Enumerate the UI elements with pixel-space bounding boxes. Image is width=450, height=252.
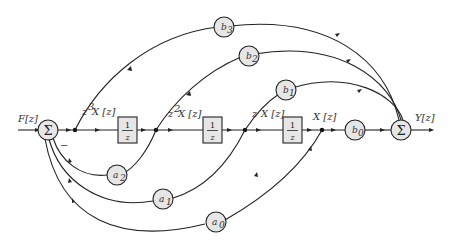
sigma-symbol: Σ <box>396 123 405 138</box>
svg-text:a: a <box>159 194 164 204</box>
diagram-canvas: − Σ Σ 1 z 1 z 1 z b 3 b 2 b 1 <box>0 0 450 252</box>
svg-text:z: z <box>209 133 215 142</box>
gain-a2: a 2 <box>107 165 127 185</box>
svg-text:z: z <box>81 106 88 117</box>
gain-b2: b 2 <box>239 46 259 66</box>
svg-text:X [z]: X [z] <box>312 111 336 122</box>
signal-label-zx: z X [z] <box>251 108 284 119</box>
svg-text:z: z <box>289 133 295 142</box>
svg-text:X [z]: X [z] <box>260 108 284 119</box>
feedforward-paths <box>75 24 403 130</box>
feedback-sign: − <box>60 140 68 151</box>
delay-block-3: 1 z <box>283 117 302 143</box>
svg-text:1: 1 <box>125 121 130 130</box>
summer-input: Σ <box>38 120 58 140</box>
svg-text:z: z <box>124 133 130 142</box>
main-signal-path <box>18 128 432 132</box>
signal-label-z3x: z 3 X [z] <box>81 101 115 117</box>
gain-a0: a 0 <box>206 212 226 232</box>
block-diagram: − Σ Σ 1 z 1 z 1 z b 3 b 2 b 1 <box>0 0 450 252</box>
svg-text:1: 1 <box>290 121 295 130</box>
svg-text:2: 2 <box>119 173 126 183</box>
svg-text:0: 0 <box>219 220 225 230</box>
svg-text:z: z <box>251 108 258 119</box>
svg-text:z: z <box>167 108 174 119</box>
svg-text:X [z]: X [z] <box>177 108 201 119</box>
svg-text:1: 1 <box>166 197 172 207</box>
delay-block-1: 1 z <box>118 117 137 143</box>
summer-output: Σ <box>391 120 411 140</box>
svg-text:2: 2 <box>251 54 258 64</box>
svg-text:a: a <box>113 170 118 180</box>
svg-text:0: 0 <box>358 128 364 138</box>
svg-text:1: 1 <box>289 88 295 98</box>
svg-text:3: 3 <box>227 25 233 35</box>
output-label: Y[z] <box>415 112 435 123</box>
signal-label-x: X [z] <box>312 111 336 122</box>
feedback-paths: − <box>45 130 322 231</box>
sigma-symbol: Σ <box>43 123 52 138</box>
gain-b1: b 1 <box>276 80 296 100</box>
input-label: F[z] <box>17 113 38 124</box>
gain-b0: b 0 <box>345 120 365 140</box>
svg-text:X [z]: X [z] <box>91 106 115 117</box>
svg-text:1: 1 <box>210 121 215 130</box>
delay-block-2: 1 z <box>203 117 222 143</box>
gain-a1: a 1 <box>153 189 173 209</box>
signal-label-z2x: z 2 X [z] <box>167 103 201 119</box>
gain-b3: b 3 <box>214 17 234 37</box>
svg-text:a: a <box>212 217 217 227</box>
